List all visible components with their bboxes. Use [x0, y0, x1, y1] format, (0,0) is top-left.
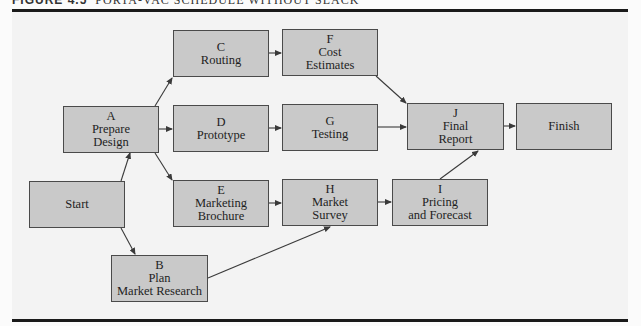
node-c-letter: C	[217, 41, 225, 54]
node-f-cost-estimates[interactable]: F Cost Estimates	[282, 29, 378, 76]
node-c-routing[interactable]: C Routing	[173, 30, 269, 77]
node-start[interactable]: Start	[29, 181, 125, 228]
node-finish-label: Finish	[548, 120, 579, 133]
node-g-line1: Testing	[312, 128, 349, 141]
node-d-letter: D	[216, 116, 225, 129]
node-a-line2: Design	[93, 136, 128, 149]
node-e-marketing-brochure[interactable]: E Marketing Brochure	[173, 180, 269, 227]
edge-i-j	[440, 151, 478, 179]
node-d-prototype[interactable]: D Prototype	[173, 105, 269, 152]
edge-b-h	[208, 227, 330, 278]
edge-a-e	[155, 153, 172, 180]
edge-start-a	[121, 153, 130, 181]
node-d-line1: Prototype	[197, 129, 246, 142]
node-f-line2: Estimates	[306, 59, 355, 72]
edge-a-c	[155, 78, 172, 106]
node-finish[interactable]: Finish	[516, 103, 612, 150]
node-c-line1: Routing	[201, 54, 241, 67]
node-i-pricing-forecast[interactable]: I Pricing and Forecast	[392, 179, 488, 226]
node-j-line2: Report	[438, 133, 472, 146]
node-g-testing[interactable]: G Testing	[282, 104, 378, 151]
edge-f-j	[376, 76, 406, 103]
bottom-rule	[12, 319, 628, 322]
node-j-final-report[interactable]: J Final Report	[407, 103, 504, 150]
edge-start-b	[121, 228, 135, 254]
node-i-line2: and Forecast	[408, 209, 472, 222]
node-g-letter: G	[325, 115, 334, 128]
node-b-line2: Market Research	[117, 285, 202, 298]
node-a-prepare-design[interactable]: A Prepare Design	[63, 106, 159, 153]
node-start-label: Start	[65, 198, 89, 211]
node-e-line2: Brochure	[198, 210, 245, 223]
node-h-line2: Survey	[312, 209, 347, 222]
node-h-market-survey[interactable]: H Market Survey	[282, 179, 378, 226]
node-b-plan-market-research[interactable]: B Plan Market Research	[111, 255, 208, 302]
